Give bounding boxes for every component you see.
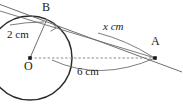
- point-label-B: B: [42, 1, 50, 13]
- point-label-A: A: [151, 35, 160, 47]
- point-label-O: O: [24, 60, 33, 72]
- measure-leader-xcm: [98, 33, 153, 57]
- measurement-label-tangent: x cm: [103, 21, 123, 32]
- measurement-label-hypotenuse: 6 cm: [77, 66, 99, 77]
- figure-canvas: [0, 0, 183, 112]
- measure-leader-2cm: [10, 22, 44, 25]
- measure-leader-6cm: [52, 58, 155, 71]
- radius-segment-OB: [30, 19, 47, 58]
- measurement-label-radius: 2 cm: [7, 29, 29, 40]
- point-marker-A: [153, 56, 157, 60]
- geometry-figure: O B A 2 cm x cm 6 cm: [0, 0, 183, 112]
